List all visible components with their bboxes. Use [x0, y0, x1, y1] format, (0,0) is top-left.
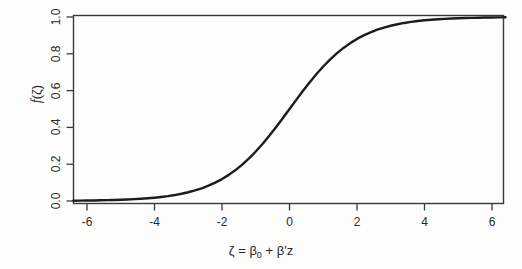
y-tick-label: 0.0 — [48, 184, 64, 218]
x-axis-label: ζ = β0 + β'z — [0, 243, 522, 260]
y-tick-label: 0.6 — [48, 74, 64, 108]
logistic-curve — [74, 17, 506, 200]
x-tick-label: 4 — [410, 215, 440, 229]
y-tick-label: 0.4 — [48, 110, 64, 144]
x-tick-label: 0 — [275, 215, 305, 229]
x-tick-label: -6 — [72, 215, 102, 229]
x-axis-ticks — [87, 204, 492, 211]
y-axis-ticks — [67, 17, 74, 201]
x-tick-label: -2 — [207, 215, 237, 229]
y-axis-label: f(ζ) — [29, 64, 49, 124]
plot-canvas — [0, 0, 522, 269]
x-tick-label: 6 — [477, 215, 507, 229]
x-tick-label: -4 — [140, 215, 170, 229]
y-tick-label: 1.0 — [48, 0, 64, 34]
logistic-function-chart: 0.00.20.40.60.81.0 -6-4-20246 f(ζ) ζ = β… — [0, 0, 522, 269]
y-tick-label: 0.8 — [48, 37, 64, 71]
x-tick-label: 2 — [342, 215, 372, 229]
y-tick-label: 0.2 — [48, 147, 64, 181]
